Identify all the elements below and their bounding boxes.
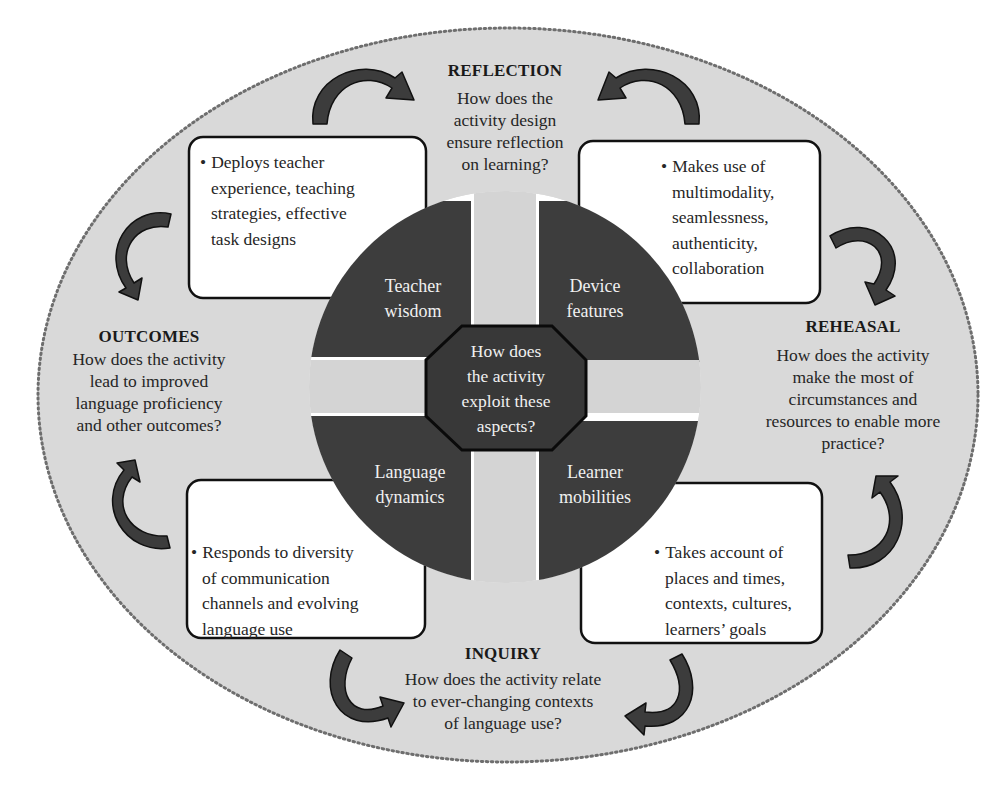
stage-inquiry: INQUIRY How does the activity relate to … [383, 643, 623, 734]
stage-title: INQUIRY [383, 643, 623, 665]
quadrant-label-language: Language dynamics [355, 460, 465, 510]
stage-outcomes: OUTCOMES How does the activity lead to i… [44, 326, 254, 436]
box-device: •Makes use of multimodality, seamlessnes… [661, 154, 774, 282]
stage-title: REFLECTION [395, 60, 615, 82]
box-teacher: •Deploys teacher experience, teaching st… [200, 150, 355, 252]
quadrant-label-teacher: Teacher wisdom [363, 274, 463, 324]
quadrant-label-learner: Learner mobilities [540, 460, 650, 510]
stage-rehearsal: REHEASAL How does the activity make the … [733, 316, 973, 454]
box-language: •Responds to diversity of communication … [191, 540, 358, 642]
stage-title: OUTCOMES [44, 326, 254, 348]
center-question: How does the activity exploit these aspe… [436, 339, 576, 439]
stage-title: REHEASAL [733, 316, 973, 338]
quadrant-label-device: Device features [545, 274, 645, 324]
stage-reflection: REFLECTION How does the activity design … [395, 60, 615, 175]
box-learner: •Takes account of places and times, cont… [654, 540, 792, 642]
